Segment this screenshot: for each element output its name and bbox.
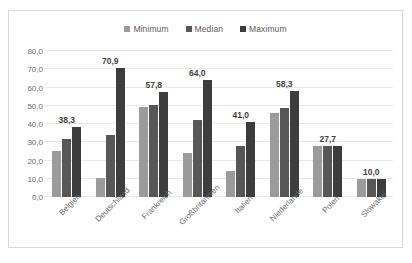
bar-median (193, 120, 202, 197)
bar-median (106, 135, 115, 197)
bar-group: 10,0 (350, 51, 394, 197)
bar-value-label: 10,0 (363, 167, 380, 177)
x-axis-cell: Slowakei (350, 199, 394, 255)
legend-label-maximum: Maximum (249, 24, 287, 34)
x-axis: BelgienDeutschlandFrankreichGroßbritanni… (45, 199, 393, 255)
bar-median (280, 108, 289, 197)
bar-minimum (139, 107, 148, 197)
bar-set (263, 51, 307, 197)
legend-item-minimum: Minimum (124, 24, 168, 34)
bar-group: 41,0 (219, 51, 263, 197)
bar-group: 58,3 (263, 51, 307, 197)
legend-label-minimum: Minimum (133, 24, 168, 34)
bar-minimum (183, 153, 192, 197)
bar-median (236, 146, 245, 197)
bar-group: 57,8 (132, 51, 176, 197)
bar-value-label: 27,7 (319, 134, 336, 144)
bar-value-label: 70,9 (102, 56, 119, 66)
y-axis-tick-label: 40,0 (27, 120, 43, 129)
bar-median (367, 179, 376, 197)
bar-value-label: 64,0 (189, 68, 206, 78)
bar-minimum (96, 178, 105, 197)
bar-maximum (72, 127, 81, 197)
legend-swatch-median-icon (186, 26, 192, 32)
bar-groups: 38,370,957,864,041,058,327,710,0 (45, 51, 393, 197)
bar-median (62, 139, 71, 197)
bar-maximum (290, 91, 299, 197)
y-axis-tick-label: 60,0 (27, 83, 43, 92)
y-axis-tick-label: 0,0 (32, 193, 43, 202)
y-axis-tick-label: 70,0 (27, 65, 43, 74)
x-axis-cell: Großbritannien (176, 199, 220, 255)
bar-value-label: 41,0 (232, 110, 249, 120)
x-axis-cell: Italien (219, 199, 263, 255)
y-axis-tick-label: 10,0 (27, 174, 43, 183)
legend-label-median: Median (195, 24, 223, 34)
bar-group: 27,7 (306, 51, 350, 197)
y-axis-tick-label: 80,0 (27, 47, 43, 56)
bar-value-label: 38,3 (58, 115, 75, 125)
bar-maximum (159, 92, 168, 197)
legend-swatch-minimum-icon (124, 26, 130, 32)
bar-minimum (313, 146, 322, 197)
bar-maximum (203, 80, 212, 197)
bar-median (323, 146, 332, 197)
bar-minimum (270, 113, 279, 197)
chart-legend: Minimum Median Maximum (9, 24, 402, 34)
x-axis-cell: Deutschland (89, 199, 133, 255)
chart-container: Minimum Median Maximum 0,010,020,030,040… (8, 10, 403, 248)
bar-set (219, 51, 263, 197)
bar-set (132, 51, 176, 197)
legend-item-median: Median (186, 24, 223, 34)
legend-swatch-maximum-icon (240, 26, 246, 32)
bar-value-label: 57,8 (145, 80, 162, 90)
x-axis-cell: Belgien (45, 199, 89, 255)
bar-group: 38,3 (45, 51, 89, 197)
bar-maximum (246, 122, 255, 197)
y-axis-tick-label: 50,0 (27, 101, 43, 110)
bar-group: 70,9 (89, 51, 133, 197)
bar-maximum (116, 68, 125, 197)
bar-set (306, 51, 350, 197)
bar-minimum (226, 171, 235, 197)
x-axis-tick-label: Polen (320, 194, 341, 215)
y-axis-tick-label: 30,0 (27, 138, 43, 147)
bar-median (149, 105, 158, 197)
x-axis-cell: Polen (306, 199, 350, 255)
bar-set (89, 51, 133, 197)
y-axis: 0,010,020,030,040,050,060,070,080,0 (17, 51, 43, 197)
bar-value-label: 58,3 (276, 79, 293, 89)
bar-maximum (333, 146, 342, 197)
bar-minimum (52, 151, 61, 197)
x-axis-cell: Frankreich (132, 199, 176, 255)
y-axis-tick-label: 20,0 (27, 156, 43, 165)
legend-item-maximum: Maximum (240, 24, 287, 34)
bar-minimum (357, 179, 366, 197)
bar-group: 64,0 (176, 51, 220, 197)
x-axis-cell: Niederlande (263, 199, 307, 255)
